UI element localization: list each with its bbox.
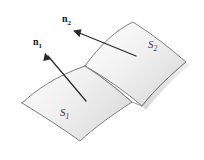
normal-vector-n1-arrowhead	[43, 53, 51, 61]
normal-vector-n2-label: n2	[62, 13, 72, 27]
surface-normals-figure: n2 n1 S2 S1	[0, 0, 204, 160]
normal-vector-n2-arrowhead	[73, 29, 82, 37]
normal-vector-n1-label: n1	[33, 36, 43, 50]
surface-normals-diagram: n2 n1 S2 S1	[0, 0, 204, 160]
